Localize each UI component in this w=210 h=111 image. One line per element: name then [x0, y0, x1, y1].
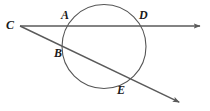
point-label-d: D	[139, 9, 148, 21]
point-label-a: A	[61, 9, 69, 21]
point-label-e: E	[117, 84, 125, 96]
lower-secant-ray	[20, 26, 179, 102]
point-label-c: C	[6, 19, 14, 31]
point-label-b: B	[54, 47, 62, 59]
geometry-canvas	[0, 0, 210, 111]
geometry-figure: C A D B E	[0, 0, 210, 111]
circle-shape	[62, 5, 146, 89]
